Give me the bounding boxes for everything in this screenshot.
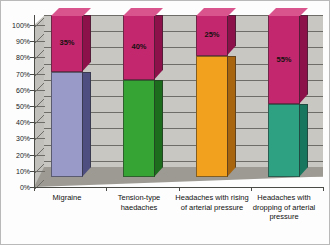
y-tick-label: 0%: [1, 184, 30, 191]
y-tick-label: 20%: [1, 151, 30, 158]
category-label-2: Tension-type haedaches: [100, 193, 178, 212]
y-tick-mark: [30, 57, 35, 58]
category-label-1: Migraine: [28, 193, 106, 203]
bar-segment-side-face: [299, 104, 308, 177]
y-tick-label: 70%: [1, 70, 30, 77]
y-tick-label: 10%: [1, 167, 30, 174]
gridline-connector: [34, 128, 45, 139]
bar-segment-front-face: [123, 80, 155, 177]
category-label-3: Headaches with rising of arterial pressu…: [173, 193, 251, 212]
bar-segment-base[interactable]: [123, 80, 163, 177]
y-tick-label: 90%: [1, 38, 30, 45]
bar-segment-base[interactable]: [51, 72, 91, 177]
bar-2[interactable]: 40%: [123, 15, 163, 187]
bar-value-label: 40%: [123, 44, 155, 52]
y-tick-mark: [30, 90, 35, 91]
bar-segment-front-face: [196, 56, 228, 178]
gridline-connector: [34, 31, 45, 42]
bar-value-label: 25%: [196, 32, 228, 40]
gridline-connector: [34, 15, 45, 26]
bar-segment-side-face: [82, 72, 91, 177]
gridline-connector: [34, 80, 45, 91]
plot-area: 35%40%25%55%: [34, 15, 323, 187]
gridline-connector: [34, 96, 45, 107]
x-tick-mark: [323, 187, 324, 191]
gridline-connector: [34, 112, 45, 123]
bar-segment-side-face: [227, 15, 236, 56]
bar-segment-side-face: [82, 15, 91, 72]
gridline-connector: [34, 145, 45, 156]
bar-segment-side-face: [154, 15, 163, 80]
y-tick-label: 100%: [1, 22, 30, 29]
x-tick-mark: [179, 187, 180, 191]
y-tick-mark: [30, 155, 35, 156]
gridline-connector: [34, 47, 45, 58]
bar-3[interactable]: 25%: [196, 15, 236, 187]
gridline-connector: [34, 161, 45, 172]
y-tick-mark: [30, 25, 35, 26]
y-tick-label: 30%: [1, 135, 30, 142]
category-label-4: Headaches with dropping of arterial pres…: [245, 193, 323, 222]
bar-segment-magenta[interactable]: 40%: [123, 15, 163, 80]
bar-segment-side-face: [299, 15, 308, 104]
x-tick-mark: [251, 187, 252, 191]
y-tick-mark: [30, 106, 35, 107]
y-tick-mark: [30, 122, 35, 123]
bar-value-label: 35%: [51, 40, 83, 48]
bar-segment-base[interactable]: [196, 56, 236, 178]
x-tick-mark: [106, 187, 107, 191]
y-tick-mark: [30, 138, 35, 139]
x-tick-mark: [34, 187, 35, 191]
y-tick-label: 40%: [1, 119, 30, 126]
bar-segment-side-face: [154, 80, 163, 177]
bar-segment-magenta[interactable]: 35%: [51, 15, 91, 72]
bar-segment-front-face: [268, 104, 300, 177]
bar-4[interactable]: 55%: [268, 15, 308, 187]
y-tick-mark: [30, 171, 35, 172]
bar-1[interactable]: 35%: [51, 15, 91, 187]
y-tick-label: 80%: [1, 54, 30, 61]
y-tick-label: 60%: [1, 86, 30, 93]
gridline-connector: [34, 64, 45, 75]
bar-segment-magenta[interactable]: 55%: [268, 15, 308, 104]
y-tick-label: 50%: [1, 103, 30, 110]
y-tick-mark: [30, 41, 35, 42]
bar-segment-front-face: [51, 72, 83, 177]
y-tick-mark: [30, 74, 35, 75]
chart-container: 35%40%25%55% 0%10%20%30%40%50%60%70%80%9…: [0, 0, 330, 245]
bar-segment-base[interactable]: [268, 104, 308, 177]
bar-value-label: 55%: [268, 56, 300, 64]
bar-segment-side-face: [227, 56, 236, 178]
bar-segment-magenta[interactable]: 25%: [196, 15, 236, 56]
